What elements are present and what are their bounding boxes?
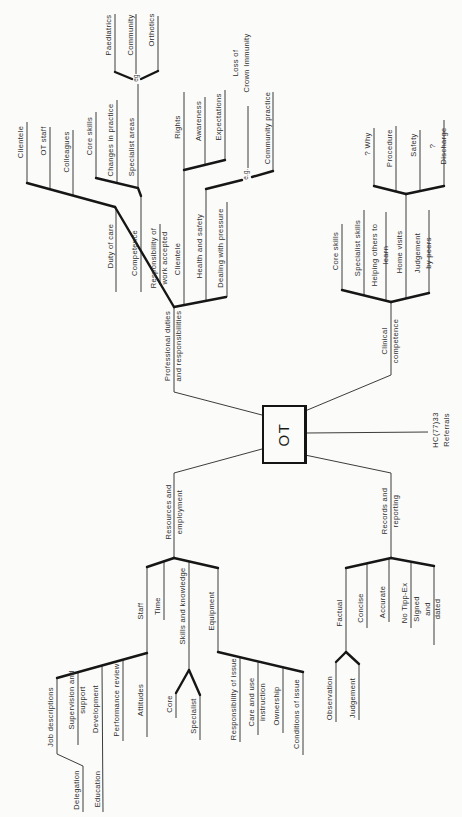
center-node-ot: OT bbox=[262, 405, 307, 464]
node-responsibility-of-work-accepted: Responsibility of work accepted bbox=[149, 228, 170, 289]
node-eg-mid: e.g. bbox=[242, 168, 251, 179]
node-competence: Competence bbox=[130, 230, 141, 276]
node-orthotics: Orthotics bbox=[147, 13, 158, 46]
node-community-practice: Community practice bbox=[263, 92, 274, 165]
node-records-reporting: Records and reporting bbox=[380, 488, 401, 534]
node-supervision-support: Supervision and support bbox=[67, 670, 88, 729]
node-time: Time bbox=[153, 597, 164, 615]
node-responsibility-of-issue: Responsibility of issue bbox=[229, 658, 240, 740]
node-why: ? Why bbox=[363, 132, 374, 155]
node-skills-and-knowledge: Skills and knowledge bbox=[178, 567, 189, 644]
node-no-tipp-ex: No Tipp-Ex bbox=[400, 583, 411, 624]
node-community: Community bbox=[126, 14, 137, 55]
node-delegation: Delegation bbox=[72, 770, 83, 809]
node-core-bottom: Core bbox=[165, 695, 176, 713]
node-judgement: Judgement bbox=[348, 678, 359, 718]
node-clientele-top: Clientele bbox=[16, 126, 27, 158]
node-ownership: Ownership bbox=[272, 687, 283, 726]
center-node-label: OT bbox=[276, 423, 293, 447]
node-performance-review: Performance review bbox=[112, 664, 123, 737]
node-discharge: ? Discharge bbox=[428, 128, 449, 165]
node-colleagues: Colleagues bbox=[62, 131, 73, 172]
node-awareness: Awareness bbox=[194, 101, 205, 141]
node-signed-and-dated: Signed and dated bbox=[412, 592, 444, 626]
node-equipment: Equipment bbox=[207, 591, 218, 630]
node-safety: Safety bbox=[409, 133, 420, 156]
node-helping-others-to-learn: Helping others to learn bbox=[370, 214, 391, 296]
node-attitudes: Attitudes bbox=[136, 684, 147, 716]
node-conditions-of-issue: Conditions of issue bbox=[292, 679, 303, 749]
node-specialist-bottom: Specialist bbox=[189, 698, 200, 734]
node-rights: Rights bbox=[173, 115, 184, 138]
node-health-and-safety: Health and safety bbox=[195, 214, 206, 278]
node-procedure: Procedure bbox=[385, 129, 396, 167]
node-clinical-competence: Clinical competence bbox=[380, 319, 401, 363]
node-professional-duties: Professional duties and responsibilities bbox=[163, 311, 184, 382]
node-concise: Concise bbox=[356, 593, 367, 623]
node-resources-employment: Resources and employment bbox=[164, 485, 185, 540]
node-home-visits: Home visits bbox=[395, 231, 406, 274]
node-care-use-instruction: Care and use instruction bbox=[247, 677, 268, 726]
node-specialist-areas: Specialist areas bbox=[127, 118, 138, 177]
node-specialist-skills: Specialist skills bbox=[353, 220, 364, 276]
node-dealing-with-pressure: Dealing with pressure bbox=[216, 208, 227, 287]
node-education: Education bbox=[93, 771, 104, 808]
node-judgement-by-peers: Judgement by peers bbox=[413, 233, 434, 273]
node-accurate: Accurate bbox=[378, 586, 389, 618]
node-core-skills-right: Core skills bbox=[331, 232, 342, 270]
node-development: Development bbox=[91, 685, 102, 733]
node-job-descriptions: Job descriptions bbox=[46, 687, 57, 747]
node-paediatrics: Paediatrics bbox=[104, 15, 115, 56]
node-loss-of-crown-immunity: Loss of Crown Immunity bbox=[231, 33, 252, 92]
node-hc7733-referrals: HC(77)33 Referrals bbox=[431, 412, 452, 447]
node-factual: Factual bbox=[335, 599, 346, 626]
node-core-skills-left: Core skills bbox=[85, 117, 96, 155]
node-observation: Observation bbox=[325, 676, 336, 720]
node-expectations: Expectations bbox=[214, 93, 225, 140]
mindmap-canvas: Paediatrics Community Orthotics eg Clien… bbox=[0, 0, 462, 817]
node-staff: Staff bbox=[136, 602, 147, 619]
node-changes-in-practice: Changes in practice bbox=[106, 104, 117, 177]
node-duty-of-care: Duty of care bbox=[106, 224, 117, 269]
node-eg-top: eg bbox=[132, 74, 141, 81]
node-clientele-mid: Clientele bbox=[173, 243, 184, 275]
node-ot-staff: OT staff bbox=[39, 126, 50, 155]
